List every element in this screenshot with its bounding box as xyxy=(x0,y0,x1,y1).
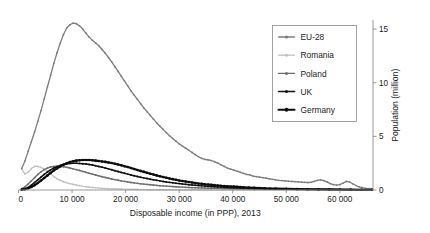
series-marker xyxy=(50,169,52,171)
series-marker xyxy=(107,161,110,164)
series-marker xyxy=(143,177,145,179)
series-marker xyxy=(50,74,52,76)
x-tick-label: 40 000 xyxy=(220,195,245,204)
series-marker xyxy=(258,187,261,190)
series-marker xyxy=(111,61,113,63)
series-marker xyxy=(47,86,49,88)
series-marker xyxy=(101,166,103,168)
series-marker xyxy=(159,180,161,182)
series-marker xyxy=(188,149,190,151)
legend-swatch-marker xyxy=(285,90,288,93)
series-marker xyxy=(236,186,239,189)
series-marker xyxy=(43,98,45,100)
series-marker xyxy=(130,90,132,92)
series-marker xyxy=(33,184,36,187)
series-marker xyxy=(66,27,68,29)
series-marker xyxy=(229,185,232,188)
series-marker xyxy=(98,165,100,167)
series-marker xyxy=(175,186,177,188)
series-marker xyxy=(49,172,52,175)
series-marker xyxy=(88,172,90,174)
series-marker xyxy=(159,175,162,178)
series-marker xyxy=(210,184,213,187)
x-tick-label: 0 xyxy=(19,195,24,204)
series-marker xyxy=(114,66,116,68)
series-marker xyxy=(130,182,132,184)
series-uk xyxy=(21,162,373,190)
series-marker xyxy=(98,187,100,189)
series-marker xyxy=(143,107,145,109)
series-marker xyxy=(69,167,71,169)
series-marker xyxy=(168,177,171,180)
series-marker xyxy=(214,161,216,163)
series-marker xyxy=(181,180,184,183)
series-marker xyxy=(185,183,187,185)
chart-figure: 010 00020 00030 00040 00050 00060 000Dis… xyxy=(0,0,430,233)
series-marker xyxy=(207,183,210,186)
x-tick-label: 50 000 xyxy=(274,195,299,204)
series-marker xyxy=(230,168,232,170)
series-marker xyxy=(259,176,261,178)
series-marker xyxy=(213,184,216,187)
series-marker xyxy=(223,185,226,188)
x-tick-label: 20 000 xyxy=(113,195,138,204)
series-marker xyxy=(349,181,351,183)
series-marker xyxy=(111,178,113,180)
series-marker xyxy=(249,174,251,176)
series-marker xyxy=(117,163,120,166)
series-marker xyxy=(76,184,78,186)
series-marker xyxy=(268,178,270,180)
series-marker xyxy=(143,171,146,174)
series-marker xyxy=(127,85,129,87)
series-marker xyxy=(272,178,274,180)
series-marker xyxy=(98,175,100,177)
series-marker xyxy=(182,145,184,147)
series-marker xyxy=(342,182,344,184)
series-marker xyxy=(88,186,90,188)
series-marker xyxy=(95,42,97,44)
series-line xyxy=(22,166,372,190)
series-marker xyxy=(178,183,180,185)
series-marker xyxy=(201,158,203,160)
series-marker xyxy=(34,131,36,133)
series-marker xyxy=(72,22,74,24)
series-poland xyxy=(21,165,373,190)
series-marker xyxy=(204,187,206,189)
series-marker xyxy=(120,164,123,167)
series-marker xyxy=(110,162,113,165)
series-marker xyxy=(188,181,191,184)
series-marker xyxy=(178,186,180,188)
legend-label: UK xyxy=(301,87,313,97)
series-marker xyxy=(223,166,225,168)
series-marker xyxy=(207,159,209,161)
series-marker xyxy=(85,186,87,188)
series-marker xyxy=(36,182,39,185)
series-marker xyxy=(65,162,68,165)
series-marker xyxy=(114,188,116,190)
series-marker xyxy=(288,180,290,182)
series-marker xyxy=(165,176,168,179)
x-axis-title: Disposable income (in PPP), 2013 xyxy=(130,208,261,218)
series-marker xyxy=(27,171,29,173)
series-marker xyxy=(136,176,138,178)
series-marker xyxy=(37,120,39,122)
series-marker xyxy=(133,94,135,96)
series-marker xyxy=(114,170,116,172)
series-marker xyxy=(31,168,33,170)
series-marker xyxy=(27,151,29,153)
series-marker xyxy=(159,125,161,127)
series-marker xyxy=(201,187,203,189)
series-marker xyxy=(156,122,158,124)
series-marker xyxy=(101,49,103,51)
series-marker xyxy=(358,186,360,188)
series-marker xyxy=(37,174,39,176)
series-marker xyxy=(30,186,33,189)
series-marker xyxy=(339,184,341,186)
series-marker xyxy=(75,169,77,171)
series-marker xyxy=(104,161,107,164)
legend-swatch-marker xyxy=(285,54,288,57)
series-marker xyxy=(139,170,142,173)
series-marker xyxy=(117,171,119,173)
series-marker xyxy=(165,185,167,187)
series-marker xyxy=(264,187,267,190)
